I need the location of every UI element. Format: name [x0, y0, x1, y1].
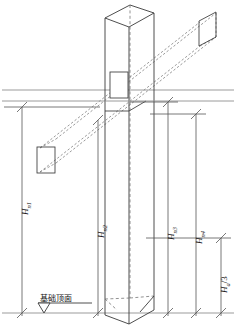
column-bottom-face [105, 310, 154, 324]
column-top-face [105, 5, 154, 27]
beam-edge-top-back [56, 13, 216, 139]
dim-Hn1-base: H [20, 209, 30, 216]
dimension-label-Hn4: Hn4 [194, 231, 206, 244]
joint-lower-lines [105, 101, 146, 111]
dim-Ha3-suffix: /3 [219, 276, 229, 283]
beam-far-end-face [199, 12, 216, 46]
dim-Hn1-sub: n1 [25, 202, 32, 209]
column-bottom-chamfer-left [105, 299, 117, 310]
column-bottom-hidden-left [105, 298, 130, 299]
column-bottom-hidden-right [130, 296, 154, 298]
reference-lines [2, 90, 234, 313]
technical-drawing [0, 0, 236, 331]
dim-Hn2-base: H [96, 232, 106, 239]
joint-box-face [110, 72, 128, 98]
dimension-label-Hn1: Hn1 [20, 202, 32, 215]
beam-edge-bottom-back [56, 37, 216, 163]
beam-near-end-face [37, 147, 55, 173]
dim-Hn4-sub: n4 [199, 231, 206, 238]
beam-edge-bottom-front [40, 46, 200, 172]
column-bottom-chamfer-right [140, 296, 154, 312]
dim-Ha3-base: H [219, 287, 229, 294]
vertical-column [105, 5, 154, 324]
diagram-canvas: Hn1 Hn2 Hn3 Hn4 Ha/3 基础顶面 [0, 0, 236, 331]
dimension-label-Ha3: Ha/3 [219, 276, 231, 293]
dimension-lines [4, 97, 231, 318]
joint-lower-edge-b [129, 101, 146, 111]
dimension-label-Hn3: Hn3 [166, 227, 178, 240]
dim-Hn4-base: H [194, 238, 204, 245]
datum-label: 基础顶面 [40, 292, 72, 303]
beam-column-joint-box [110, 72, 128, 98]
level-triangle-icon [38, 303, 50, 313]
dimension-label-Hn2: Hn2 [96, 225, 108, 238]
datum-symbol-group [38, 303, 92, 313]
dim-Ha3-sub: a [224, 283, 231, 286]
dim-Hn3-base: H [166, 234, 176, 241]
dim-Hn2-sub: n2 [101, 225, 108, 232]
dim-Hn3-sub: n3 [171, 227, 178, 234]
beam-depth-left-bottom [40, 163, 56, 172]
